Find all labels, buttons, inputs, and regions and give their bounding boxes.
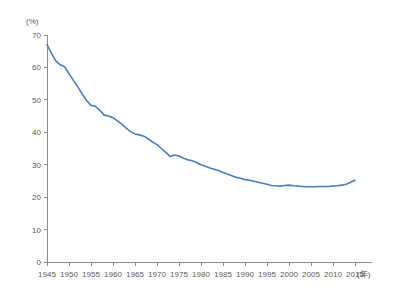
x-tick-label: 1945 [38, 270, 56, 279]
x-tick-label: 1965 [126, 270, 144, 279]
y-tick-label: 50 [32, 96, 41, 105]
x-tick-label: 1990 [236, 270, 254, 279]
x-tick-label: 1960 [104, 270, 122, 279]
x-axis-unit-label: (年) [357, 269, 371, 279]
chart-container: (%) 010203040506070 19451950195519601965… [0, 0, 394, 292]
x-tick-label: 1970 [148, 270, 166, 279]
y-tick-label: 0 [37, 258, 42, 267]
x-tick-label: 2010 [324, 270, 342, 279]
x-tick-label: 2005 [302, 270, 320, 279]
y-axis-ticks: 010203040506070 [32, 31, 47, 267]
y-tick-label: 30 [32, 161, 41, 170]
x-tick-label: 1950 [60, 270, 78, 279]
x-tick-label: 1975 [170, 270, 188, 279]
x-tick-label: 1980 [192, 270, 210, 279]
x-axis-ticks: 1945195019551960196519701975198019851990… [38, 262, 364, 279]
y-tick-label: 20 [32, 193, 41, 202]
line-chart: (%) 010203040506070 19451950195519601965… [0, 0, 394, 292]
y-axis-unit-label: (%) [26, 17, 39, 26]
data-series-line [47, 45, 355, 187]
y-tick-label: 40 [32, 128, 41, 137]
y-tick-label: 10 [32, 226, 41, 235]
y-tick-label: 60 [32, 63, 41, 72]
y-tick-label: 70 [32, 31, 41, 40]
x-tick-label: 1995 [258, 270, 276, 279]
x-tick-label: 1985 [214, 270, 232, 279]
x-tick-label: 2000 [280, 270, 298, 279]
x-tick-label: 1955 [82, 270, 100, 279]
